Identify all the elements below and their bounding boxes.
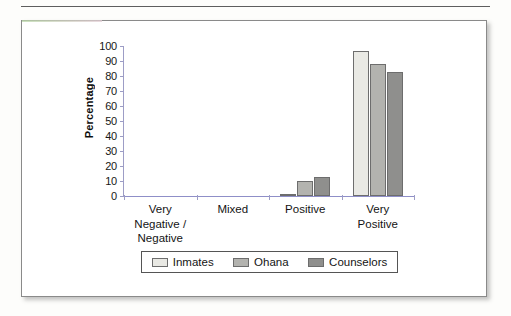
legend-item-counselors[interactable]: Counselors: [308, 256, 387, 268]
plot-area: [124, 46, 414, 196]
x-axis-label-line: Very: [330, 202, 426, 217]
legend-label: Ohana: [254, 256, 289, 268]
x-axis-label: VeryPositive: [330, 202, 426, 231]
bar-counselors[interactable]: [387, 72, 403, 197]
y-axis-tick-label: 0: [111, 191, 117, 202]
y-axis-tick-label: 20: [105, 161, 117, 172]
chart-legend: InmatesOhanaCounselors: [141, 251, 398, 273]
bar-group: [269, 46, 342, 196]
legend-item-ohana[interactable]: Ohana: [233, 256, 289, 268]
legend-label: Inmates: [173, 256, 214, 268]
bar-group: [124, 46, 197, 196]
x-axis-label-line: Negative: [112, 231, 208, 246]
legend-item-inmates[interactable]: Inmates: [152, 256, 214, 268]
y-axis-tick-label: 60: [105, 101, 117, 112]
page-top-rule: [21, 6, 490, 7]
bar-ohana[interactable]: [297, 181, 313, 196]
bar-counselors[interactable]: [314, 177, 330, 197]
y-axis-tick-label: 90: [105, 56, 117, 67]
scan-color-artifact: [22, 20, 102, 22]
x-axis-tick-mark: [414, 195, 415, 200]
bar-group: [342, 46, 415, 196]
bar-ohana[interactable]: [370, 64, 386, 196]
x-axis-label-line: Positive: [330, 217, 426, 232]
legend-swatch: [152, 258, 168, 267]
y-axis-tick-label: 10: [105, 176, 117, 187]
scanned-page-background: Percentage 1009080706050403020100 VeryNe…: [0, 0, 511, 316]
legend-swatch: [233, 258, 249, 267]
y-axis-tick-label: 80: [105, 71, 117, 82]
y-axis-tick-label: 70: [105, 86, 117, 97]
y-axis-tick-label: 30: [105, 146, 117, 157]
y-axis-tick-label: 50: [105, 116, 117, 127]
y-axis-title: Percentage: [83, 77, 97, 138]
y-axis-tick-label: 40: [105, 131, 117, 142]
x-axis-label-line: Negative /: [112, 217, 208, 232]
legend-label: Counselors: [329, 256, 387, 268]
legend-swatch: [308, 258, 324, 267]
bar-inmates[interactable]: [353, 51, 369, 197]
bar-inmates[interactable]: [280, 194, 296, 196]
bar-group: [197, 46, 270, 196]
y-axis-tick-label: 100: [99, 41, 117, 52]
